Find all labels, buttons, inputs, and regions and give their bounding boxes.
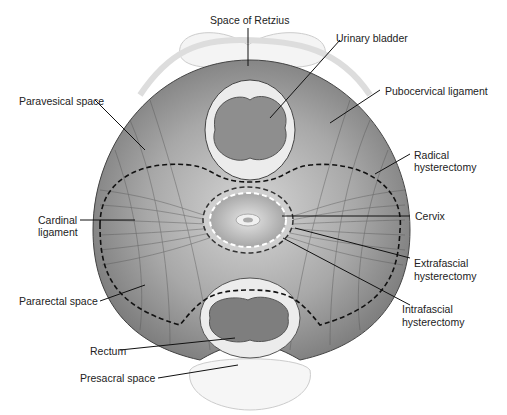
- pelvic-diagram: Space of Retzius Urinary bladder Pubocer…: [0, 0, 507, 415]
- bladder-lumen: [214, 96, 286, 160]
- label-extrafascial-1: Extrafascial: [414, 257, 468, 269]
- label-intrafascial-1: Intrafascial: [402, 303, 453, 315]
- label-cardinal-1: Cardinal: [38, 214, 77, 226]
- label-pubocervical-ligament: Pubocervical ligament: [385, 85, 488, 97]
- label-cardinal-2: ligament: [38, 226, 78, 238]
- diagram-graphic: [0, 0, 507, 415]
- label-radical-2: hysterectomy: [414, 161, 476, 173]
- label-rectum: Rectum: [90, 345, 126, 357]
- rectum-lumen: [209, 297, 288, 342]
- label-extrafascial-2: hysterectomy: [414, 270, 476, 282]
- label-space-of-retzius: Space of Retzius: [210, 14, 289, 26]
- label-cervix: Cervix: [415, 210, 445, 222]
- label-radical-1: Radical: [414, 149, 449, 161]
- label-paravesical-space: Paravesical space: [19, 95, 104, 107]
- label-pararectal-space: Pararectal space: [19, 295, 98, 307]
- sacrum: [190, 359, 311, 410]
- label-intrafascial-2: hysterectomy: [402, 316, 464, 328]
- label-presacral-space: Presacral space: [80, 372, 155, 384]
- label-urinary-bladder: Urinary bladder: [336, 32, 408, 44]
